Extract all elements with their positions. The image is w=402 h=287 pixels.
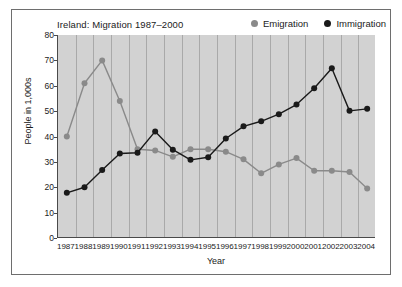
x-tick-label: 1987: [57, 242, 75, 251]
series-line-immigration: [67, 68, 367, 193]
data-point-emigration-1997: [241, 156, 247, 162]
data-point-emigration-2004: [364, 186, 370, 192]
data-point-immigration-2004: [364, 106, 370, 112]
data-point-immigration-1992: [152, 128, 158, 134]
y-tick-label: 60: [45, 81, 54, 91]
y-tick-label: 10: [45, 208, 54, 218]
chart-legend: Emigration Immigration: [251, 18, 386, 29]
data-point-immigration-1993: [170, 147, 176, 153]
circle-marker-gray-icon: [251, 20, 258, 27]
data-point-emigration-1994: [188, 146, 194, 152]
x-tick-label: 1991: [128, 242, 146, 251]
x-tick-label: 2004: [357, 242, 375, 251]
x-tick-label: 1999: [269, 242, 287, 251]
x-tick-label: 2001: [304, 242, 322, 251]
x-tick-label: 1989: [92, 242, 110, 251]
series-layer: [58, 35, 376, 238]
data-point-immigration-1987: [64, 190, 70, 196]
data-point-emigration-2003: [347, 169, 353, 175]
y-tick-mark: [54, 238, 57, 239]
x-axis-title: Year: [57, 256, 375, 266]
data-point-emigration-1998: [258, 170, 264, 176]
data-point-immigration-2001: [311, 85, 317, 91]
y-tick-label: 80: [45, 30, 54, 40]
data-point-immigration-2002: [329, 65, 335, 71]
legend-label-emigration: Emigration: [263, 18, 308, 29]
y-tick-label: 20: [45, 182, 54, 192]
data-point-immigration-2003: [347, 108, 353, 114]
data-point-emigration-2001: [311, 168, 317, 174]
x-tick-label: 1990: [110, 242, 128, 251]
data-point-immigration-1994: [188, 157, 194, 163]
x-tick-label: 1996: [216, 242, 234, 251]
x-tick-label: 1997: [234, 242, 252, 251]
y-tick-label: 40: [45, 132, 54, 142]
x-tick-label: 2002: [322, 242, 340, 251]
y-tick-label: 70: [45, 55, 54, 65]
y-tick-label: 50: [45, 106, 54, 116]
data-point-immigration-1999: [276, 111, 282, 117]
data-point-immigration-1989: [99, 167, 105, 173]
data-point-emigration-1988: [82, 80, 88, 86]
y-tick-label: 30: [45, 157, 54, 167]
chart-title: Ireland: Migration 1987–2000: [57, 19, 183, 30]
circle-marker-black-icon: [324, 20, 331, 27]
data-point-emigration-2000: [294, 155, 300, 161]
data-point-emigration-1993: [170, 154, 176, 160]
x-tick-label: 2000: [287, 242, 305, 251]
x-tick-label: 1994: [181, 242, 199, 251]
y-axis-title: People in 1,000s: [23, 41, 33, 181]
legend-item-immigration: Immigration: [324, 18, 386, 29]
data-point-immigration-1991: [135, 150, 141, 156]
legend-item-emigration: Emigration: [251, 18, 308, 29]
migration-line-chart: Ireland: Migration 1987–2000 Emigration …: [12, 10, 392, 276]
data-point-emigration-1987: [64, 134, 70, 140]
data-point-emigration-1999: [276, 161, 282, 167]
x-tick-label: 1995: [198, 242, 216, 251]
data-point-immigration-1995: [205, 154, 211, 160]
plot-area: [57, 35, 375, 238]
data-point-immigration-2000: [294, 102, 300, 108]
data-point-immigration-1988: [82, 184, 88, 190]
data-point-emigration-1995: [205, 146, 211, 152]
data-point-immigration-1998: [258, 118, 264, 124]
data-point-immigration-1997: [241, 123, 247, 129]
data-point-emigration-1992: [152, 147, 158, 153]
data-point-emigration-1996: [223, 149, 229, 155]
legend-label-immigration: Immigration: [336, 18, 386, 29]
data-point-emigration-2002: [329, 168, 335, 174]
data-point-emigration-1989: [99, 57, 105, 63]
data-point-immigration-1990: [117, 151, 123, 157]
x-tick-label: 1988: [75, 242, 93, 251]
y-axis-tick-labels: 01020304050607080: [32, 35, 54, 238]
x-tick-label: 1993: [163, 242, 181, 251]
data-point-emigration-1990: [117, 98, 123, 104]
figure-frame: Ireland: Migration 1987–2000 Emigration …: [11, 9, 391, 275]
x-tick-label: 1992: [145, 242, 163, 251]
x-tick-label: 1998: [251, 242, 269, 251]
data-point-immigration-1996: [223, 136, 229, 142]
x-tick-label: 2003: [340, 242, 358, 251]
